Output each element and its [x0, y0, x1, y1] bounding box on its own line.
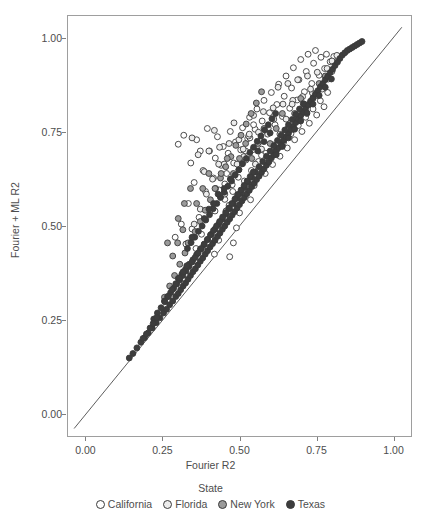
data-point — [254, 106, 260, 112]
data-point — [278, 132, 284, 138]
data-point — [273, 152, 279, 158]
legend-marker-icon — [163, 500, 172, 509]
data-point — [191, 180, 197, 186]
data-point — [279, 144, 285, 150]
data-point — [243, 121, 249, 127]
data-point — [150, 321, 156, 327]
y-tick-mark — [62, 132, 66, 133]
data-point — [308, 86, 314, 92]
data-point — [250, 169, 256, 175]
data-point — [218, 171, 224, 177]
data-point — [215, 134, 221, 140]
legend-item-label: New York — [230, 498, 274, 510]
data-point — [299, 129, 305, 135]
data-point — [281, 93, 287, 99]
x-tick-label: 0.75 — [297, 444, 337, 456]
x-tick-mark — [394, 437, 395, 441]
data-point — [217, 144, 223, 150]
data-point — [270, 105, 276, 111]
data-point — [175, 141, 181, 147]
legend-item-florida[interactable]: Florida — [163, 498, 207, 510]
y-tick-mark — [62, 414, 66, 415]
data-point — [165, 240, 171, 246]
data-point — [292, 137, 298, 143]
data-point — [306, 120, 312, 126]
data-point — [184, 263, 190, 269]
data-point — [258, 133, 264, 139]
data-point — [253, 100, 259, 106]
data-point — [309, 81, 315, 87]
data-point — [177, 275, 183, 281]
data-point — [172, 234, 178, 240]
x-axis-ticks: 0.000.250.500.751.00 — [0, 437, 421, 459]
data-point — [246, 131, 252, 137]
data-point — [224, 156, 230, 162]
data-point — [166, 294, 172, 300]
data-point — [298, 57, 304, 63]
data-point — [211, 251, 217, 257]
data-point — [286, 122, 292, 128]
data-point — [267, 130, 273, 136]
data-point — [206, 148, 212, 154]
data-point — [169, 287, 175, 293]
data-point — [282, 127, 288, 133]
data-point — [275, 84, 281, 90]
data-point — [324, 51, 330, 57]
data-point — [273, 126, 279, 132]
y-axis-ticks: 0.000.250.500.751.00 — [22, 0, 62, 440]
data-point — [249, 156, 255, 162]
data-point — [248, 197, 254, 203]
data-point — [268, 90, 274, 96]
data-point — [305, 51, 311, 57]
data-point — [177, 261, 183, 267]
legend-item-california[interactable]: California — [96, 498, 152, 510]
data-point — [191, 221, 197, 227]
data-point — [173, 281, 179, 287]
data-point — [247, 150, 253, 156]
data-point — [290, 65, 296, 71]
data-point — [154, 315, 160, 321]
legend-marker-icon — [286, 500, 295, 509]
data-point — [212, 186, 218, 192]
data-point — [189, 234, 195, 240]
data-point — [206, 206, 212, 212]
y-tick-label: 0.25 — [26, 314, 62, 326]
data-point — [259, 118, 265, 124]
x-tick-mark — [162, 437, 163, 441]
data-point — [261, 97, 267, 103]
legend-item-label: California — [108, 498, 152, 510]
data-point — [316, 93, 322, 99]
data-point — [188, 186, 194, 192]
data-point — [256, 164, 262, 170]
data-point — [280, 101, 286, 107]
data-point — [267, 148, 273, 154]
data-point — [293, 111, 299, 117]
data-point — [255, 148, 261, 154]
y-tick-label: 1.00 — [26, 32, 62, 44]
data-point — [295, 77, 301, 83]
data-point — [265, 122, 271, 128]
data-point — [215, 191, 221, 197]
data-point — [227, 176, 233, 182]
data-point — [238, 132, 244, 138]
data-point — [292, 126, 298, 132]
data-point — [211, 127, 217, 133]
data-point — [181, 201, 187, 207]
series-texas — [126, 39, 365, 361]
data-point — [211, 201, 217, 207]
data-point — [261, 139, 267, 145]
data-point — [203, 191, 209, 197]
x-tick-label: 0.00 — [65, 444, 105, 456]
x-axis-title: Fourier R2 — [0, 459, 421, 471]
data-point — [232, 172, 238, 178]
data-point — [271, 143, 277, 149]
data-point — [184, 246, 190, 252]
data-point — [162, 299, 168, 305]
y-tick-label: 0.75 — [26, 126, 62, 138]
data-point — [321, 104, 327, 110]
data-point — [275, 138, 281, 144]
data-point — [313, 48, 319, 54]
legend-item-texas[interactable]: Texas — [286, 498, 325, 510]
legend-item-new-york[interactable]: New York — [218, 498, 274, 510]
data-point — [311, 60, 317, 66]
